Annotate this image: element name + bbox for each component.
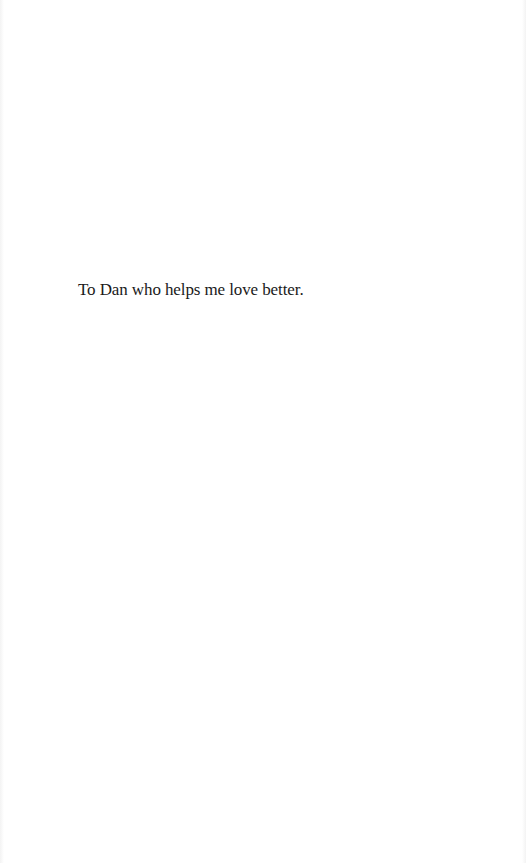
dedication-text: To Dan who helps me love better. (78, 279, 304, 301)
page-edge-left (0, 0, 4, 863)
page-edge-right (522, 0, 526, 863)
dedication-page: To Dan who helps me love better. (0, 0, 526, 863)
